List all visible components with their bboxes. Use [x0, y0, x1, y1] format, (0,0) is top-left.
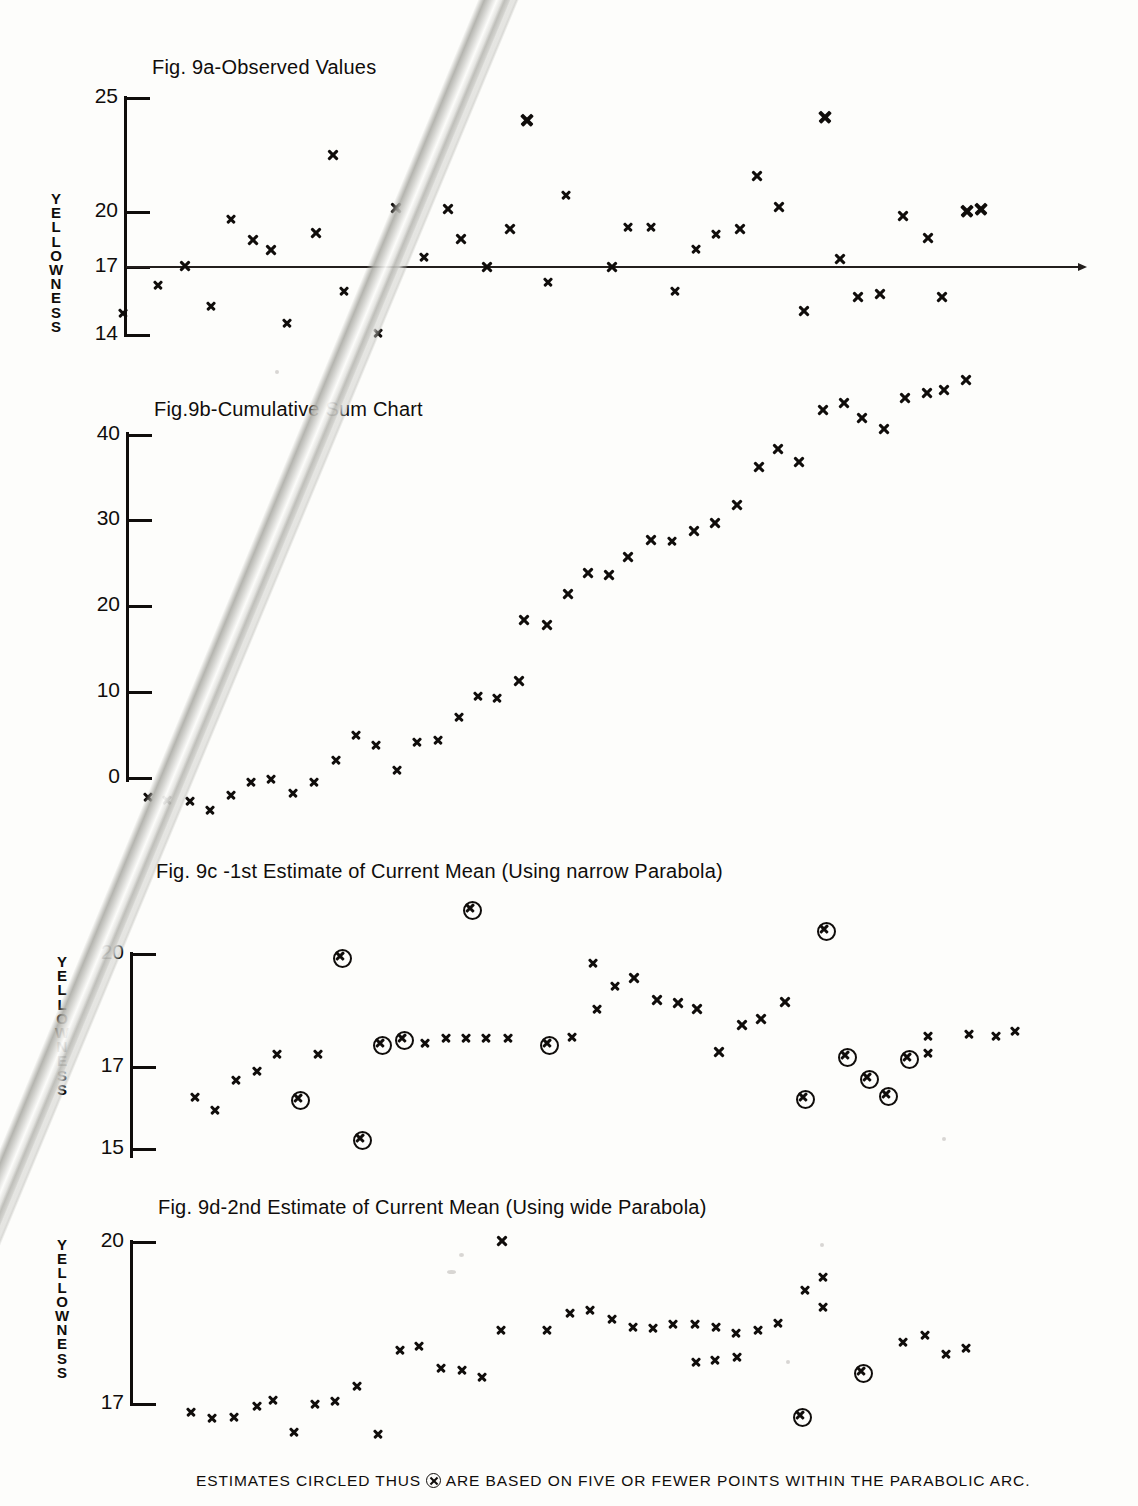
footnote-text-before: ESTIMATES CIRCLED THUS — [196, 1472, 421, 1489]
scan-smudge — [459, 1253, 464, 1257]
circled-marker-icon — [426, 1473, 441, 1488]
footnote-text-after: ARE BASED ON FIVE OR FEWER POINTS WITHIN… — [446, 1472, 1031, 1489]
scan-smudge — [275, 370, 279, 374]
footnote: ESTIMATES CIRCLED THUS ARE BASED ON FIVE… — [196, 1472, 1030, 1490]
scan-smudge — [447, 1270, 456, 1274]
figure-9d: Fig. 9d-2nd Estimate of Current Mean (Us… — [0, 0, 1138, 1460]
scan-smudge — [786, 1360, 790, 1364]
scan-smudge — [820, 1243, 824, 1247]
figure-9d-plot-area — [0, 0, 1138, 1460]
scan-smudge — [942, 1137, 946, 1141]
